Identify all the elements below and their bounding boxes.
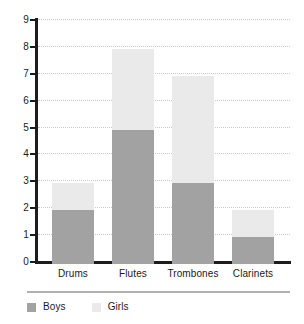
legend-label: Boys <box>43 302 66 312</box>
bar-stack[interactable] <box>52 183 94 264</box>
stacked-bar-chart: 0123456789 DrumsFlutesTrombonesClarinets… <box>0 0 304 324</box>
y-axis-tick-labels: 0123456789 <box>0 0 29 324</box>
y-tick-label: 5 <box>3 123 29 133</box>
bar-stack[interactable] <box>112 49 154 264</box>
legend-swatch-icon <box>27 303 36 312</box>
bar-segment-girls[interactable] <box>112 49 154 130</box>
y-tick-label: 0 <box>3 257 29 267</box>
legend-item-girls[interactable]: Girls <box>92 302 129 312</box>
bar-group[interactable] <box>232 20 274 264</box>
bar-segment-girls[interactable] <box>172 76 214 184</box>
bar-stack[interactable] <box>232 210 274 264</box>
legend-divider <box>27 291 290 293</box>
y-tick-label: 4 <box>3 149 29 159</box>
y-tick-label: 2 <box>3 203 29 213</box>
legend-item-boys[interactable]: Boys <box>27 302 66 312</box>
y-tick-label: 9 <box>3 15 29 25</box>
legend-label: Girls <box>108 302 129 312</box>
bar-group[interactable] <box>112 20 154 264</box>
y-tick-label: 6 <box>3 96 29 106</box>
y-tick-label: 7 <box>3 69 29 79</box>
bar-segment-boys[interactable] <box>52 210 94 264</box>
bar-segment-boys[interactable] <box>172 183 214 264</box>
bar-segment-girls[interactable] <box>52 183 94 210</box>
bar-group[interactable] <box>172 20 214 264</box>
bar-segment-boys[interactable] <box>232 237 274 264</box>
bar-group[interactable] <box>52 20 94 264</box>
bar-segment-boys[interactable] <box>112 130 154 264</box>
y-tick-label: 8 <box>3 42 29 52</box>
bar-stack[interactable] <box>172 76 214 264</box>
legend-swatch-icon <box>92 303 101 312</box>
y-tick-label: 1 <box>3 230 29 240</box>
x-tick-label: Clarinets <box>213 268 293 279</box>
legend: BoysGirls <box>27 302 129 312</box>
plot-area <box>36 18 290 264</box>
y-tick-label: 3 <box>3 176 29 186</box>
bar-segment-girls[interactable] <box>232 210 274 237</box>
